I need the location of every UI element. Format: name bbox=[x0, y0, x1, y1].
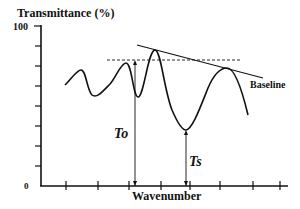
ts-label: Ts bbox=[189, 154, 202, 169]
baseline-label: Baseline bbox=[250, 79, 286, 90]
y-min-label: 0 bbox=[24, 181, 29, 191]
spectrum-curve bbox=[65, 50, 248, 130]
y-axis-title: Transmittance (%) bbox=[17, 6, 114, 20]
to-label: To bbox=[114, 126, 128, 141]
ts-arrowhead-top bbox=[184, 130, 188, 135]
y-ticks bbox=[34, 26, 41, 166]
to-arrowhead-top bbox=[133, 60, 137, 65]
y-max-label: 100 bbox=[13, 21, 28, 32]
transmittance-diagram: Transmittance (%) 100 0 Wavenumber Basel… bbox=[0, 0, 300, 209]
x-axis-title: Wavenumber bbox=[132, 189, 202, 203]
